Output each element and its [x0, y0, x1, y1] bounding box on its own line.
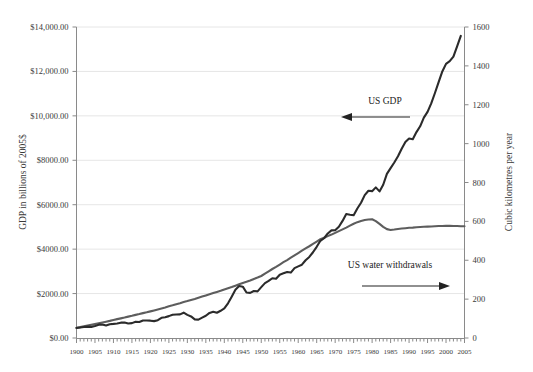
y-axis-right-tick-label: 1600	[473, 22, 490, 32]
y-axis-left-tick-label: $12,000.00	[30, 66, 68, 76]
y-axis-left-tick-label: $2000.00	[37, 289, 69, 299]
x-axis-tick-label: 1920	[143, 348, 158, 356]
y-axis-right-tick-label: 200	[473, 294, 486, 304]
x-axis-tick-label: 1925	[162, 348, 177, 356]
y-axis-left-tick-label: $14,000.00	[30, 22, 68, 32]
x-axis-tick-label: 1930	[180, 348, 195, 356]
y-axis-right-tick-label: 400	[473, 255, 486, 265]
x-axis-tick-label: 2000	[439, 348, 454, 356]
x-axis-tick-label: 1935	[199, 348, 214, 356]
y-axis-right-tick-label: 1400	[473, 61, 490, 71]
x-axis-tick-label: 1970	[328, 348, 343, 356]
annotation-label-us-water-withdrawals: US water withdrawals	[348, 260, 433, 270]
y-axis-left-tick-label: $4000.00	[37, 244, 69, 254]
y-axis-left-tick-label: $8000.00	[37, 155, 69, 165]
x-axis-tick-label: 1975	[347, 348, 362, 356]
x-axis-tick-label: 1910	[106, 348, 121, 356]
x-axis-tick-label: 1945	[236, 348, 251, 356]
x-axis-tick-label: 1940	[217, 348, 232, 356]
y-axis-right-tick-label: 1200	[473, 100, 490, 110]
x-axis-tick-label: 1915	[125, 348, 140, 356]
y-axis-left-tick-label: $0.00	[49, 333, 68, 343]
y-axis-right-tick-label: 800	[473, 178, 486, 188]
annotation-label-us-gdp: US GDP	[368, 96, 402, 106]
y-axis-right-tick-label: 600	[473, 216, 486, 226]
x-axis-tick-label: 1995	[421, 348, 436, 356]
y-axis-left-tick-label: $10,000.00	[30, 111, 68, 121]
x-axis-tick-label: 2005	[458, 348, 473, 356]
y-axis-left-tick-label: $6000.00	[37, 200, 69, 210]
y-axis-right-tick-label: 0	[473, 333, 477, 343]
y-axis-right-tick-label: 1000	[473, 139, 490, 149]
x-axis-tick-label: 1900	[70, 348, 85, 356]
y-axis-right-title: Cubic kilometres per year	[504, 132, 514, 231]
chart-figure: $0.00$2000.00$4000.00$6000.00$8000.00$10…	[0, 0, 533, 372]
x-axis-tick-label: 1980	[365, 348, 380, 356]
x-axis-tick-label: 1950	[254, 348, 269, 356]
x-axis-tick-label: 1965	[310, 348, 325, 356]
x-axis-tick-label: 1985	[384, 348, 399, 356]
x-axis-tick-label: 1960	[291, 348, 306, 356]
x-axis-tick-label: 1905	[88, 348, 103, 356]
x-axis-tick-label: 1955	[273, 348, 288, 356]
x-axis-tick-label: 1990	[402, 348, 417, 356]
y-axis-left-title: GDP in billions of 2005$	[18, 134, 28, 230]
